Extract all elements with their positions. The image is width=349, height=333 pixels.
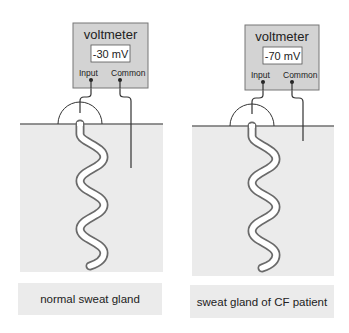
caption-cf-patient: sweat gland of CF patient xyxy=(190,285,334,318)
voltmeter: voltmeter -70 mV Input Common xyxy=(245,25,319,90)
voltmeter-title: voltmeter xyxy=(84,27,138,42)
voltmeter-reading: -70 mV xyxy=(265,50,301,62)
panel-normal: voltmeter -30 mV Input Common xyxy=(20,23,163,272)
input-wire xyxy=(80,88,91,113)
common-port-label: Common xyxy=(111,68,146,78)
input-port-label: Input xyxy=(79,68,99,78)
input-wire xyxy=(252,90,263,114)
caption-normal: normal sweat gland xyxy=(18,283,162,315)
voltmeter-title: voltmeter xyxy=(255,29,309,44)
voltmeter-reading: -30 mV xyxy=(93,48,129,60)
input-port-label: Input xyxy=(251,70,271,80)
common-port-label: Common xyxy=(283,70,318,80)
panel-cf-patient: voltmeter -70 mV Input Common xyxy=(192,25,334,276)
voltmeter: voltmeter -30 mV Input Common xyxy=(73,23,148,88)
